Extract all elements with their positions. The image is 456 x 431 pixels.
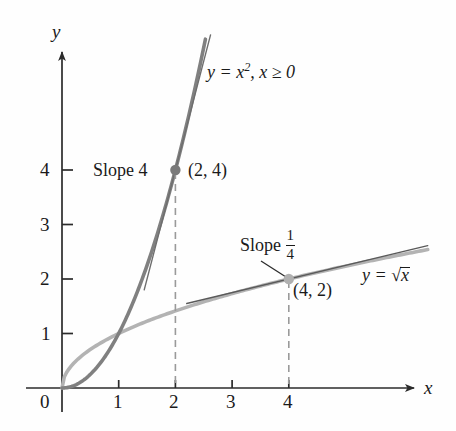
leader-line-slope-quarter xyxy=(261,261,286,277)
y-axis-label: y xyxy=(52,22,60,41)
figure-container: y x 0 1 2 3 4 1 2 3 4 y = x2, x ≥ 0 y = … xyxy=(0,0,456,431)
point-label-2-4: (2, 4) xyxy=(188,161,227,179)
y-tick-label-4: 4 xyxy=(40,160,50,179)
axis-group xyxy=(26,52,414,412)
radical-vinculum xyxy=(400,267,410,268)
y-tick-marks xyxy=(62,170,73,334)
y-tick-label-2: 2 xyxy=(40,269,50,288)
slope-sqrt-word: Slope xyxy=(240,235,281,255)
x-axis-label: x xyxy=(424,378,432,397)
y-tick-label-1: 1 xyxy=(41,324,51,343)
x-tick-label-4: 4 xyxy=(283,392,293,411)
fraction-denominator: 4 xyxy=(286,247,296,263)
point-marker-2-4 xyxy=(170,165,180,175)
curves-group xyxy=(62,35,428,388)
slope-annotation-sqrt: Slope 14 xyxy=(240,228,295,263)
radical-sign: √x xyxy=(391,266,409,284)
marked-points xyxy=(170,165,294,284)
sqrt-equation-label: y = √x xyxy=(362,266,409,284)
dashed-droplines xyxy=(175,172,288,386)
x-tick-label-2: 2 xyxy=(169,392,179,411)
x-tick-label-1: 1 xyxy=(113,392,123,411)
slope-annotation-parabola: Slope 4 xyxy=(93,161,148,179)
x-tick-label-3: 3 xyxy=(226,392,236,411)
parabola-curve xyxy=(62,39,205,388)
point-label-4-2: (4, 2) xyxy=(293,281,332,299)
leader-lines xyxy=(261,261,286,277)
y-tick-label-3: 3 xyxy=(40,215,50,234)
sqrt-eq-lhs: y = xyxy=(362,265,391,285)
parabola-equation-label: y = x2, x ≥ 0 xyxy=(207,61,295,81)
x-tick-marks xyxy=(119,380,289,388)
fraction-numerator: 1 xyxy=(286,228,296,244)
fraction-one-quarter: 14 xyxy=(286,228,296,263)
parabola-eq-condition: , x ≥ 0 xyxy=(250,62,295,82)
parabola-eq-base: y = x xyxy=(207,62,244,82)
origin-label: 0 xyxy=(40,392,50,411)
